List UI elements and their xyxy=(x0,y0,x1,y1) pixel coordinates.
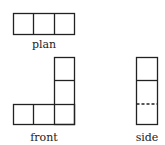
front-label: front xyxy=(30,131,58,144)
side-view xyxy=(137,58,158,125)
plan-label: plan xyxy=(32,38,56,51)
plan-view xyxy=(14,14,75,35)
front-view xyxy=(14,58,75,125)
orthographic-views-diagram: plan front side xyxy=(0,0,165,145)
side-label: side xyxy=(136,131,159,144)
